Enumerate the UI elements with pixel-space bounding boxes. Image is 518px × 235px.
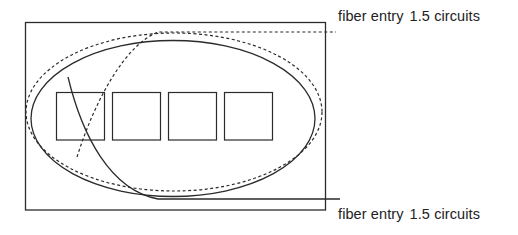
top-fiber-path	[77, 32, 336, 157]
enclosure-rect	[26, 23, 326, 211]
top-fiber-label-value: 1.5 circuits	[410, 8, 481, 24]
square-2	[113, 93, 161, 141]
fiber-diagram	[0, 0, 518, 235]
dashed-ring	[26, 33, 322, 191]
bottom-fiber-label-value: 1.5 circuits	[410, 206, 481, 222]
top-fiber-label-text: fiber entry	[338, 8, 404, 24]
top-fiber-label: fiber entry1.5 circuits	[338, 8, 480, 24]
square-4	[225, 93, 273, 141]
bottom-fiber-path	[68, 77, 340, 199]
bottom-fiber-label-text: fiber entry	[338, 206, 404, 222]
bottom-fiber-label: fiber entry1.5 circuits	[338, 206, 480, 222]
square-3	[169, 93, 217, 141]
